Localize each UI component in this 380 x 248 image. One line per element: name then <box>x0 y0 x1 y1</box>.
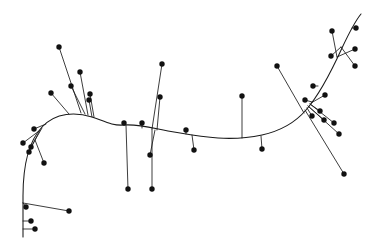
data-point <box>86 97 91 102</box>
data-point <box>352 46 357 51</box>
data-point <box>309 113 314 118</box>
data-point <box>336 131 341 136</box>
data-point <box>331 120 336 125</box>
principal-curve-plot <box>0 0 380 248</box>
data-point <box>353 25 358 30</box>
data-point <box>28 218 33 223</box>
data-point <box>310 83 315 88</box>
data-point <box>352 63 357 68</box>
data-point <box>259 146 264 151</box>
data-point <box>159 61 164 66</box>
data-point <box>322 92 327 97</box>
plot-background <box>0 0 380 248</box>
data-point <box>41 160 46 165</box>
data-point <box>121 120 126 125</box>
data-point <box>191 147 196 152</box>
data-point <box>341 171 346 176</box>
data-point <box>31 126 36 131</box>
data-point <box>329 28 334 33</box>
data-point <box>68 83 73 88</box>
data-point <box>157 94 162 99</box>
data-point <box>48 90 53 95</box>
data-point <box>77 69 82 74</box>
data-point <box>87 91 92 96</box>
data-point <box>139 120 144 125</box>
data-point <box>20 140 25 145</box>
data-point <box>32 226 37 231</box>
data-point <box>26 149 31 154</box>
data-point <box>302 97 307 102</box>
data-point <box>56 44 61 49</box>
data-point <box>317 108 322 113</box>
data-point <box>125 186 130 191</box>
data-point <box>149 186 154 191</box>
data-point <box>321 117 326 122</box>
data-point <box>274 63 279 68</box>
figure-root <box>0 0 380 248</box>
data-point <box>328 53 333 58</box>
data-point <box>23 204 28 209</box>
data-point <box>147 152 152 157</box>
data-point <box>183 127 188 132</box>
data-point <box>66 208 71 213</box>
data-point <box>239 93 244 98</box>
data-point <box>28 144 33 149</box>
